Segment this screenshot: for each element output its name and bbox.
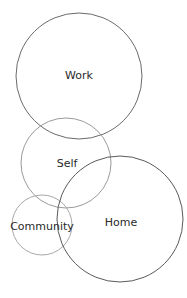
work-label: Work [65, 69, 93, 82]
community-label: Community [10, 220, 74, 233]
life-domains-diagram: Work Self Community Home [0, 0, 187, 298]
self-label: Self [57, 157, 79, 170]
circles-layer [12, 13, 183, 282]
home-label: Home [105, 216, 138, 229]
labels-layer: Work Self Community Home [10, 69, 137, 233]
